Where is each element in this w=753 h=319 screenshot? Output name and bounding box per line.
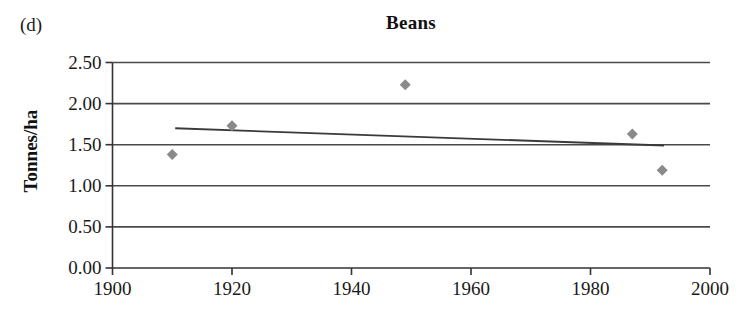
x-tick-label-1980: 1980	[556, 278, 626, 300]
y-tick-label-0.00: 0.00	[44, 257, 102, 279]
y-tick-label-2.00: 2.00	[44, 93, 102, 115]
data-markers-group	[167, 79, 668, 175]
data-point-4	[657, 165, 668, 176]
x-tick-label-1960: 1960	[436, 278, 506, 300]
trendline	[175, 128, 664, 145]
chart-figure: (d) Beans Tonnes/ha 0.000.501.001.502.00…	[0, 0, 753, 319]
y-tick-label-1.50: 1.50	[44, 134, 102, 156]
y-tick-label-2.50: 2.50	[44, 52, 102, 74]
x-tick-label-2000: 2000	[675, 278, 745, 300]
tick-marks-group	[106, 63, 711, 276]
trendline-path	[175, 128, 664, 145]
x-tick-label-1900: 1900	[78, 278, 148, 300]
x-tick-label-1940: 1940	[317, 278, 387, 300]
axis-lines-group	[113, 63, 711, 269]
data-point-0	[167, 149, 178, 160]
y-tick-label-1.00: 1.00	[44, 175, 102, 197]
data-point-3	[627, 129, 638, 140]
y-tick-label-0.50: 0.50	[44, 216, 102, 238]
plot-area	[0, 0, 753, 319]
x-tick-label-1920: 1920	[197, 278, 267, 300]
data-point-2	[400, 79, 411, 90]
